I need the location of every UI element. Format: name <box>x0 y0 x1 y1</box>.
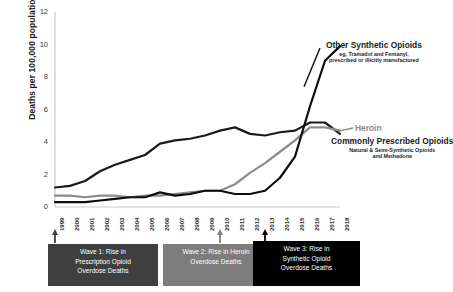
wave-arrows <box>52 229 268 243</box>
label-heroin: Heroin <box>355 124 382 134</box>
wave-1-line-1: Wave 1: Rise in <box>50 247 156 257</box>
label-commonly-prescribed-opioids-title: Commonly Prescribed Opioids <box>331 137 453 147</box>
wave-1-line-3: Overdose Deaths <box>50 266 156 276</box>
wave-2-line-1: Wave 2: Rise in Heroin <box>165 247 267 257</box>
wave-1-arrow <box>52 229 58 243</box>
leader-line-heroin <box>341 128 353 131</box>
label-commonly-prescribed-opioids: Commonly Prescribed Opioids Natural & Se… <box>331 137 453 160</box>
label-other-synthetic-opioids: Other Synthetic Opioids eg, Tramadol and… <box>326 41 422 64</box>
label-commonly-prescribed-opioids-sub1: Natural & Semi-Synthetic Opioids <box>331 147 453 154</box>
wave-3-line-3: Overdose Deaths <box>255 263 358 273</box>
wave-2-arrow <box>217 229 223 243</box>
label-other-synthetic-opioids-title: Other Synthetic Opioids <box>326 41 422 51</box>
wave-3-line-2: Synthetic Opioid <box>255 254 358 264</box>
wave-3-annotation-box: Wave 3: Rise in Synthetic Opioid Overdos… <box>253 241 360 286</box>
label-commonly-prescribed-opioids-sub2: and Methadone <box>331 153 453 160</box>
series-lines <box>55 46 353 202</box>
wave-1-line-2: Prescription Opioid <box>50 257 156 267</box>
series-line-other-synthetic-opioids <box>55 46 340 202</box>
wave-2-line-2: Overdose Deaths <box>165 257 267 267</box>
wave-3-line-1: Wave 3: Rise in <box>255 244 358 254</box>
opioid-overdose-chart: Deaths per 100,000 population 024681012 … <box>0 0 453 292</box>
label-other-synthetic-opioids-sub2: prescribed or illicitly manufactured <box>326 57 422 64</box>
wave-1-annotation-box: Wave 1: Rise in Prescription Opioid Over… <box>48 244 158 286</box>
series-line-commonly-prescribed-opioids <box>55 123 340 188</box>
label-heroin-title: Heroin <box>355 124 382 134</box>
label-other-synthetic-opioids-sub1: eg, Tramadol and Fentanyl, <box>326 51 422 58</box>
